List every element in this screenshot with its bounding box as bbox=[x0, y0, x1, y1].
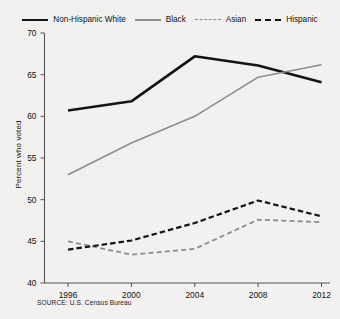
y-tick-label: 40 bbox=[27, 278, 37, 288]
y-tick-label: 60 bbox=[27, 111, 37, 121]
chart-plot-area: 40455055606570 19962000200420082012 bbox=[0, 0, 340, 319]
x-tick-label: 2012 bbox=[312, 290, 331, 300]
y-tick-label: 45 bbox=[27, 236, 37, 246]
y-tick-label: 65 bbox=[27, 70, 37, 80]
chart-source-note: SOURCE: U.S. Census Bureau bbox=[37, 299, 132, 306]
x-axis-ticks: 19962000200420082012 bbox=[59, 283, 331, 300]
y-tick-label: 50 bbox=[27, 195, 37, 205]
chart-container: Non-Hispanic White Black Asian Hispanic … bbox=[0, 0, 340, 319]
chart-series-non-hispanic-white bbox=[68, 56, 322, 110]
chart-series-hispanic bbox=[68, 201, 322, 250]
x-tick-label: 2004 bbox=[185, 290, 204, 300]
x-tick-label: 2008 bbox=[249, 290, 268, 300]
chart-series-group bbox=[68, 56, 322, 254]
chart-series-asian bbox=[68, 220, 322, 255]
y-tick-label: 70 bbox=[27, 28, 37, 38]
y-tick-label: 55 bbox=[27, 153, 37, 163]
chart-series-black bbox=[68, 65, 322, 175]
y-axis-ticks: 40455055606570 bbox=[27, 28, 44, 288]
